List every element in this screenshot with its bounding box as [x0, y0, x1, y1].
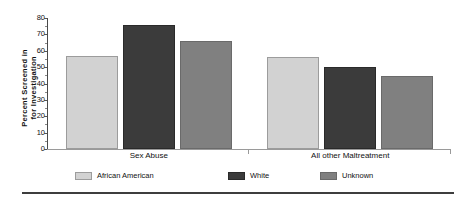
- bar: [66, 56, 118, 149]
- bar: [123, 25, 175, 149]
- plot-area: 01020304050607080: [47, 18, 451, 150]
- x-axis-tick-end: [450, 150, 451, 154]
- chart-legend: African AmericanWhiteUnknown: [0, 172, 476, 186]
- legend-swatch-icon: [228, 172, 245, 180]
- legend-swatch-icon: [320, 172, 337, 180]
- bar: [381, 76, 433, 149]
- x-axis-line: [47, 149, 451, 150]
- x-axis-category-label: All other Maltreatment: [311, 152, 389, 160]
- legend-label: African American: [97, 172, 154, 180]
- legend-label: Unknown: [342, 172, 373, 180]
- legend-item[interactable]: Unknown: [320, 172, 373, 180]
- x-axis-category-label: Sex Abuse: [130, 152, 168, 160]
- bar-series-container: [48, 18, 451, 149]
- legend-item[interactable]: White: [228, 172, 269, 180]
- bar: [267, 57, 319, 149]
- bar: [324, 67, 376, 149]
- legend-swatch-icon: [75, 172, 92, 180]
- legend-item[interactable]: African American: [75, 172, 154, 180]
- x-axis-tick-mid: [248, 150, 249, 154]
- legend-label: White: [250, 172, 269, 180]
- bar-chart-figure: Percent Screened in for Investigation 01…: [0, 0, 476, 204]
- bar: [180, 41, 232, 149]
- bottom-divider-rule: [22, 192, 454, 194]
- y-axis-tick-labels: 01020304050607080: [25, 18, 45, 150]
